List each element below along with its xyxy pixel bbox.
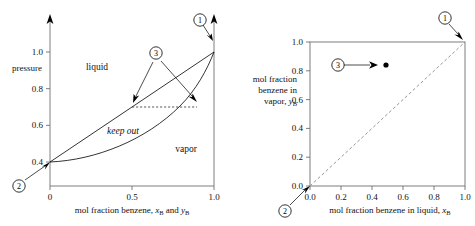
figure-svg: 1.0 0.8 0.6 0.4 0 0.5 1.0 pressure mol f… [0, 0, 475, 226]
right-xtick-label-0.0: 0.0 [304, 192, 316, 202]
left-callout-3-label: 3 [154, 49, 158, 58]
left-callout-1[interactable]: 1 [194, 14, 213, 41]
right-panel: 1.0 0.8 0.6 0.4 0.2 0.0 0.0 0.2 0.4 0.6 … [253, 12, 471, 217]
right-callout-1-label: 1 [443, 14, 447, 23]
right-callout-1-arrowhead [454, 31, 463, 40]
right-x-axis-title: mol fraction benzene in liquid, xB [329, 205, 451, 216]
left-callout-1-arrowhead [206, 34, 213, 42]
left-region-label-vapor: vapor [175, 144, 197, 154]
right-y-ticks: 1.0 0.8 0.6 0.4 0.2 0.0 [292, 37, 310, 191]
left-callout-2-label: 2 [17, 182, 21, 191]
right-y-axis-title-line3: vapor, yB [264, 96, 298, 107]
left-region-label-keep-out: keep out [107, 126, 139, 136]
left-x-ticks: 0 0.5 1.0 [48, 186, 220, 202]
left-xtick-label-0.5: 0.5 [126, 192, 138, 202]
right-xtick-label-1.0: 1.0 [459, 192, 471, 202]
right-callout-1[interactable]: 1 [439, 12, 463, 40]
right-xtick-label-0.4: 0.4 [366, 192, 378, 202]
right-callout-2-label: 2 [283, 207, 287, 216]
right-xtick-label-0.6: 0.6 [397, 192, 409, 202]
figure-root: 1.0 0.8 0.6 0.4 0 0.5 1.0 pressure mol f… [0, 0, 475, 226]
right-ytick-label-0.2: 0.2 [292, 152, 303, 162]
left-callout-2-arrowhead [42, 162, 50, 170]
right-ytick-label-0.0: 0.0 [292, 181, 304, 191]
left-x-axis-title: mol fraction benzene, xB and yB [75, 205, 190, 216]
right-xtick-label-0.8: 0.8 [428, 192, 440, 202]
left-panel: 1.0 0.8 0.6 0.4 0 0.5 1.0 pressure mol f… [12, 14, 220, 216]
right-data-point[interactable] [383, 62, 388, 67]
right-y-axis-title-line2: benzene in [258, 85, 297, 95]
left-right-edge [211, 14, 218, 186]
right-y-axis-title: mol fraction benzene in vapor, yB [253, 74, 298, 107]
right-y-axis-title-line1: mol fraction [253, 74, 298, 84]
left-y-axis-title: pressure [12, 63, 42, 73]
right-ytick-label-1.0: 1.0 [292, 37, 304, 47]
right-xtick-label-0.2: 0.2 [335, 192, 346, 202]
right-callout-3-label: 3 [336, 61, 340, 70]
right-callout-3-arrowhead [369, 61, 378, 69]
left-ytick-label-0.6: 0.6 [32, 120, 44, 130]
left-ytick-label-0.4: 0.4 [32, 157, 44, 167]
right-x-ticks: 0.0 0.2 0.4 0.6 0.8 1.0 [304, 186, 471, 202]
left-region-label-liquid: liquid [86, 62, 108, 72]
left-ytick-label-1.0: 1.0 [32, 47, 44, 57]
right-ytick-label-0.4: 0.4 [292, 123, 304, 133]
left-callout-3[interactable]: 3 [133, 47, 197, 103]
left-callout-1-label: 1 [198, 16, 202, 25]
right-callout-3[interactable]: 3 [332, 59, 378, 71]
left-ytick-label-0.8: 0.8 [32, 84, 44, 94]
left-xtick-label-0: 0 [48, 192, 53, 202]
left-xtick-label-1.0: 1.0 [208, 192, 220, 202]
